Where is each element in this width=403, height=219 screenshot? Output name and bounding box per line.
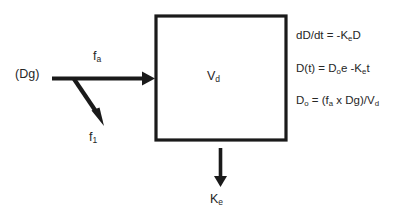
loss-fraction-label: f1 [89, 131, 97, 144]
equation-subscript: a [329, 99, 333, 108]
equation-text: D(t) = D [296, 62, 337, 74]
dose-source-label: (Dg) [15, 68, 39, 81]
equation-subscript: e [362, 67, 366, 76]
compartment-label: Vd [207, 70, 220, 83]
equation-subscript: o [304, 99, 308, 108]
equation-text: x Dg)/V [333, 94, 375, 106]
elimination-arrow [214, 148, 227, 187]
absorption-fraction-subscript: a [96, 54, 101, 64]
loss-fraction-subscript: 1 [92, 135, 97, 145]
equation-text: D [352, 29, 360, 41]
elimination-constant-label: Ke [210, 193, 223, 206]
elimination-constant-subscript: e [218, 197, 223, 207]
equation-subscript: o [337, 67, 341, 76]
compartment-subscript: d [215, 74, 220, 84]
equation-exponential-decay: D(t) = Doe -Ket [296, 63, 403, 75]
equation-text: e -K [341, 62, 362, 74]
equation-initial-concentration: Do = (fa x Dg)/Vd [296, 95, 403, 107]
equation-subscript: e [348, 34, 352, 43]
equation-rate-of-change: dD/dt = -KeD [296, 30, 403, 42]
equation-subscript: d [375, 99, 379, 108]
equation-text: = (f [309, 94, 329, 106]
loss-arrow [74, 79, 104, 126]
equation-text: dD/dt = -K [296, 29, 348, 41]
equation-list: dD/dt = -KeDD(t) = Doe -KetDo = (fa x Dg… [296, 30, 403, 128]
pharmacokinetic-diagram: (Dg) fa f1 Vd Ke dD/dt = -KeDD(t) = Doe … [0, 0, 403, 219]
absorption-fraction-label: fa [93, 50, 101, 63]
compartment-box [156, 16, 286, 140]
absorption-arrow [52, 72, 155, 86]
equation-text: t [366, 62, 369, 74]
